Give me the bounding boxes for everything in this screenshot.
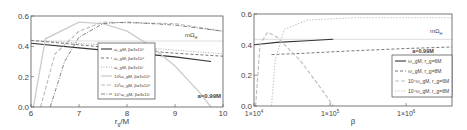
x-tick-label: 7: [77, 109, 82, 118]
legend-label: ω_gM, β=3x10⁶: [114, 56, 144, 61]
figure: 0.00.20.40.6678910 mΩH a=0.99M rg/M ω_gM…: [0, 0, 467, 130]
y-tick-label: 0.4: [18, 42, 30, 51]
legend-label: ω_gM, r_g=8M: [408, 68, 442, 74]
left-chart: 0.00.20.40.6678910 mΩH a=0.99M rg/M ω_gM…: [18, 12, 228, 127]
left-spin-annotation: a=0.99M: [197, 93, 221, 99]
x-tick-label: 1×105: [321, 109, 340, 117]
y-tick-label: 0.6: [18, 12, 30, 21]
left-legend: ω_gM, β=3x10⁵ω_gM, β=3x10⁶ω_gM, β=3x10⁷1…: [98, 43, 155, 99]
x-tick-label: 10: [219, 109, 228, 118]
right-spin-annotation: a=0.99M: [412, 48, 434, 54]
right-chart: 0.00.20.40.61×1041×1051×106 mΩH a=0.99M …: [241, 10, 452, 126]
legend-label: ω_gM, β=3x10⁵: [114, 47, 144, 52]
y-tick-label: 0.2: [18, 73, 30, 82]
legend-label: ω_gM, β=3x10⁷: [114, 65, 144, 70]
legend-label: 10⁴ω_gM, r_g=6M: [408, 78, 449, 84]
y-tick-label: 0.2: [241, 71, 253, 80]
y-tick-label: 0.6: [241, 10, 253, 19]
series-line-0: [254, 39, 333, 44]
x-tick-label: 1×106: [397, 109, 416, 117]
y-tick-label: 0.4: [241, 41, 253, 50]
charts-svg: 0.00.20.40.6678910 mΩH a=0.99M rg/M ω_gM…: [0, 0, 467, 130]
right-ticks: 0.00.20.40.61×1041×1051×106: [241, 10, 416, 117]
left-omega-h-label: mΩH: [185, 32, 197, 40]
x-tick-label: 9: [173, 109, 178, 118]
legend-label: 10³ω_gM, β=3x10⁶: [114, 83, 151, 88]
legend-label: 10²ω_gM, β=3x10⁵: [114, 74, 151, 79]
right-omega-h-label: mΩH: [430, 28, 442, 36]
legend-label: 10⁴ω_gM, β=3x10⁷: [114, 92, 151, 97]
x-tick-label: 6: [29, 109, 34, 118]
right-legend: a=0.99M ω_gM, r_g=6Mω_gM, r_g=8M10⁴ω_gM,…: [392, 48, 452, 97]
legend-label: 10⁴ω_gM, r_g=8M: [408, 88, 449, 94]
left-x-axis-label: rg/M: [115, 117, 130, 127]
legend-label: ω_gM, r_g=6M: [408, 58, 442, 64]
right-x-axis-label: β: [351, 117, 356, 126]
x-tick-label: 1×104: [245, 109, 264, 117]
